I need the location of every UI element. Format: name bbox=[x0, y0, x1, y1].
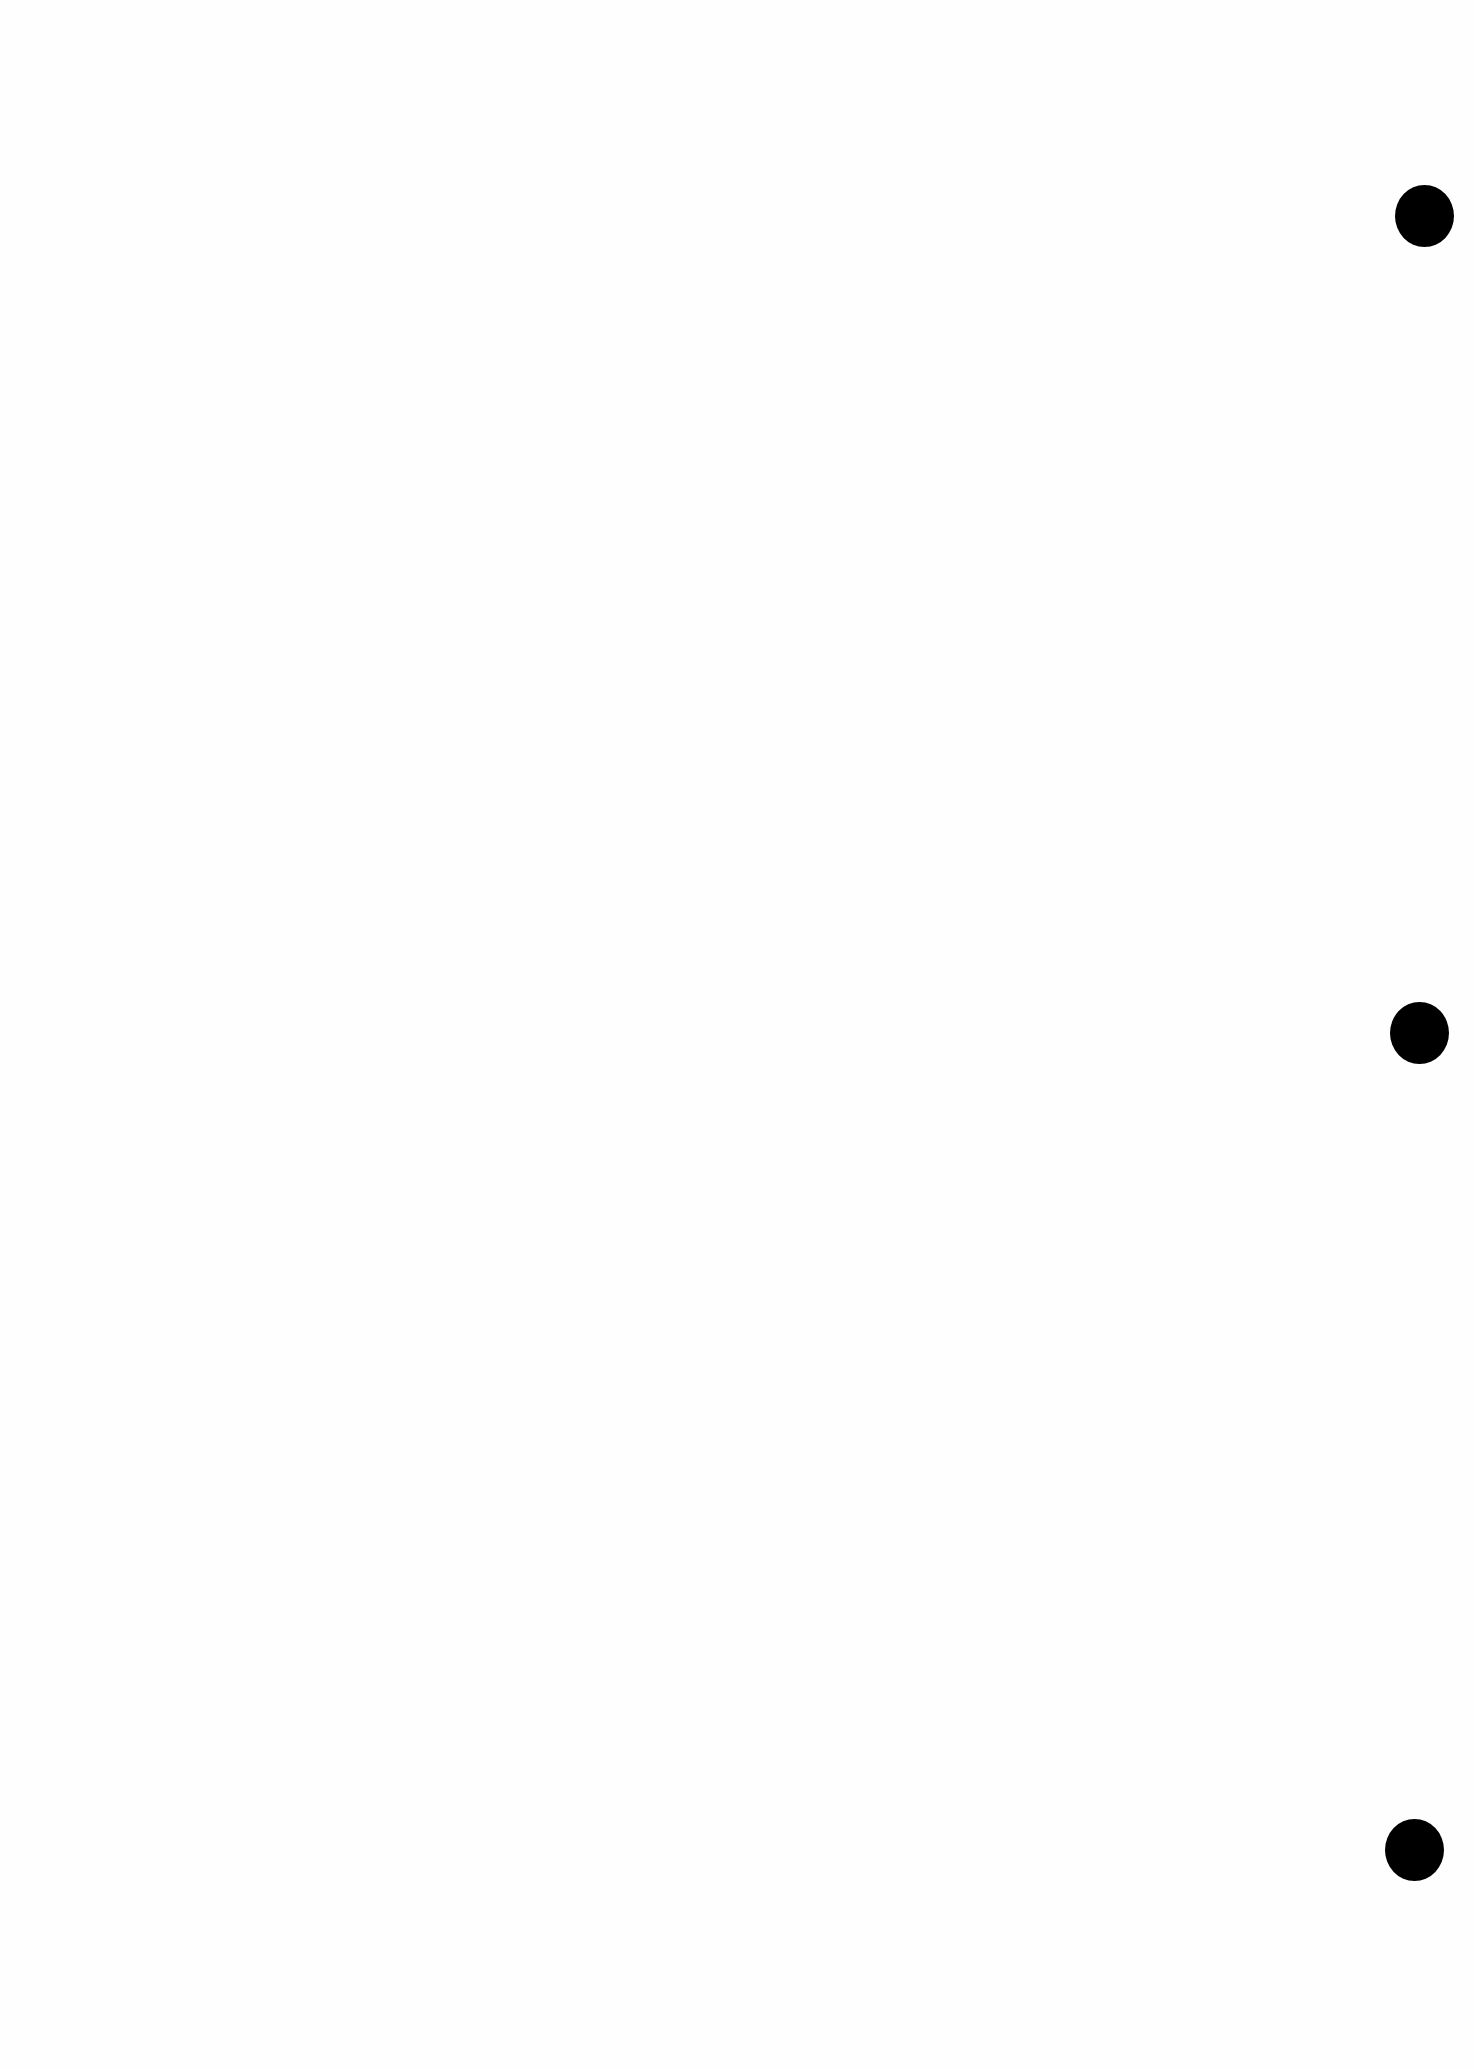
punch-hole-middle-icon bbox=[1390, 1002, 1449, 1064]
punch-hole-bottom-icon bbox=[1385, 1819, 1444, 1881]
blank-page bbox=[0, 0, 1474, 2069]
punch-hole-top-icon bbox=[1395, 185, 1454, 247]
